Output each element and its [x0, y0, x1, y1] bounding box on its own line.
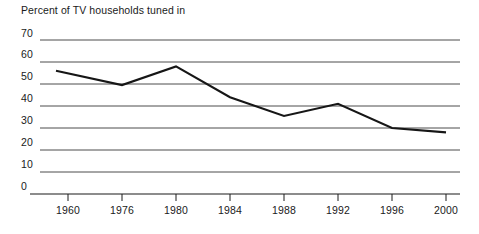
chart-canvas — [0, 0, 479, 234]
x-axis-ticks — [68, 194, 446, 201]
x-tick-label-1980: 1980 — [164, 204, 188, 216]
line-chart-figure: Percent of TV households tuned in 70 60 … — [0, 0, 479, 234]
y-tick-label-0: 0 — [21, 180, 27, 192]
x-tick-label-1992: 1992 — [326, 204, 350, 216]
x-tick-label-1988: 1988 — [272, 204, 296, 216]
y-tick-label-70: 70 — [21, 27, 33, 39]
y-tick-label-20: 20 — [21, 136, 33, 148]
x-tick-label-1984: 1984 — [218, 204, 242, 216]
data-series-line — [56, 66, 446, 132]
x-tick-label-2000: 2000 — [434, 204, 458, 216]
x-tick-label-1960: 1960 — [56, 204, 80, 216]
y-tick-label-40: 40 — [21, 92, 33, 104]
y-tick-label-10: 10 — [21, 158, 33, 170]
gridlines — [40, 40, 460, 172]
plot-area: 70 60 50 40 30 20 10 0 — [0, 0, 479, 234]
x-tick-label-1996: 1996 — [380, 204, 404, 216]
x-tick-label-1976: 1976 — [110, 204, 134, 216]
y-tick-label-50: 50 — [21, 70, 33, 82]
y-tick-label-60: 60 — [21, 48, 33, 60]
y-tick-label-30: 30 — [21, 114, 33, 126]
